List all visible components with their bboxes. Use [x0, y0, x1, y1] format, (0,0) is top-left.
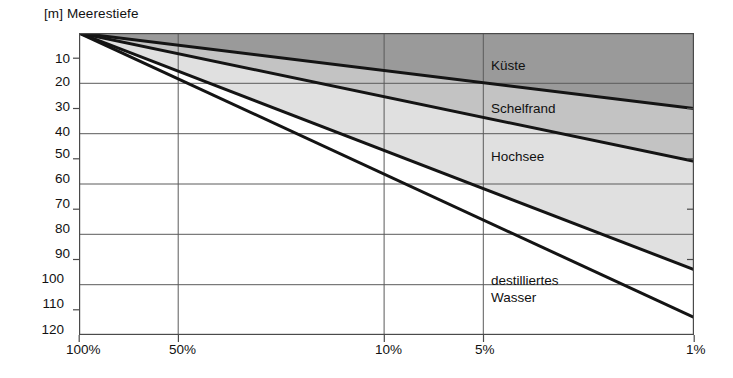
x-axis-ticks	[60, 333, 700, 345]
plot-svg	[79, 33, 694, 335]
band-label-hochsee: Hochsee	[491, 148, 544, 165]
y-tick-label-120: 120	[28, 322, 64, 337]
light-penetration-chart: [m] Meerestiefe 10 20 30 40 50 60 70 80 …	[0, 0, 733, 378]
y-tick-label-40: 40	[34, 124, 70, 139]
y-tick-label-110: 110	[28, 296, 64, 311]
plot-area	[79, 33, 694, 335]
band-label-destilliertes-wasser-line1: destilliertes	[491, 272, 559, 289]
y-axis-ticks	[68, 33, 80, 343]
band-label-schelfrand: Schelfrand	[491, 100, 556, 117]
y-tick-label-30: 30	[34, 99, 70, 114]
y-tick-label-50: 50	[34, 146, 70, 161]
y-tick-label-10: 10	[34, 51, 70, 66]
y-tick-label-60: 60	[34, 171, 70, 186]
y-axis-title: [m] Meerestiefe	[44, 6, 139, 21]
y-tick-label-90: 90	[34, 246, 70, 261]
y-axis-ticks-right	[686, 33, 698, 343]
y-tick-label-80: 80	[34, 221, 70, 236]
y-tick-label-20: 20	[34, 74, 70, 89]
band-label-kueste: Küste	[491, 57, 526, 74]
y-tick-label-70: 70	[34, 196, 70, 211]
y-tick-label-100: 100	[28, 271, 64, 286]
band-label-destilliertes-wasser-line2: Wasser	[491, 289, 536, 306]
